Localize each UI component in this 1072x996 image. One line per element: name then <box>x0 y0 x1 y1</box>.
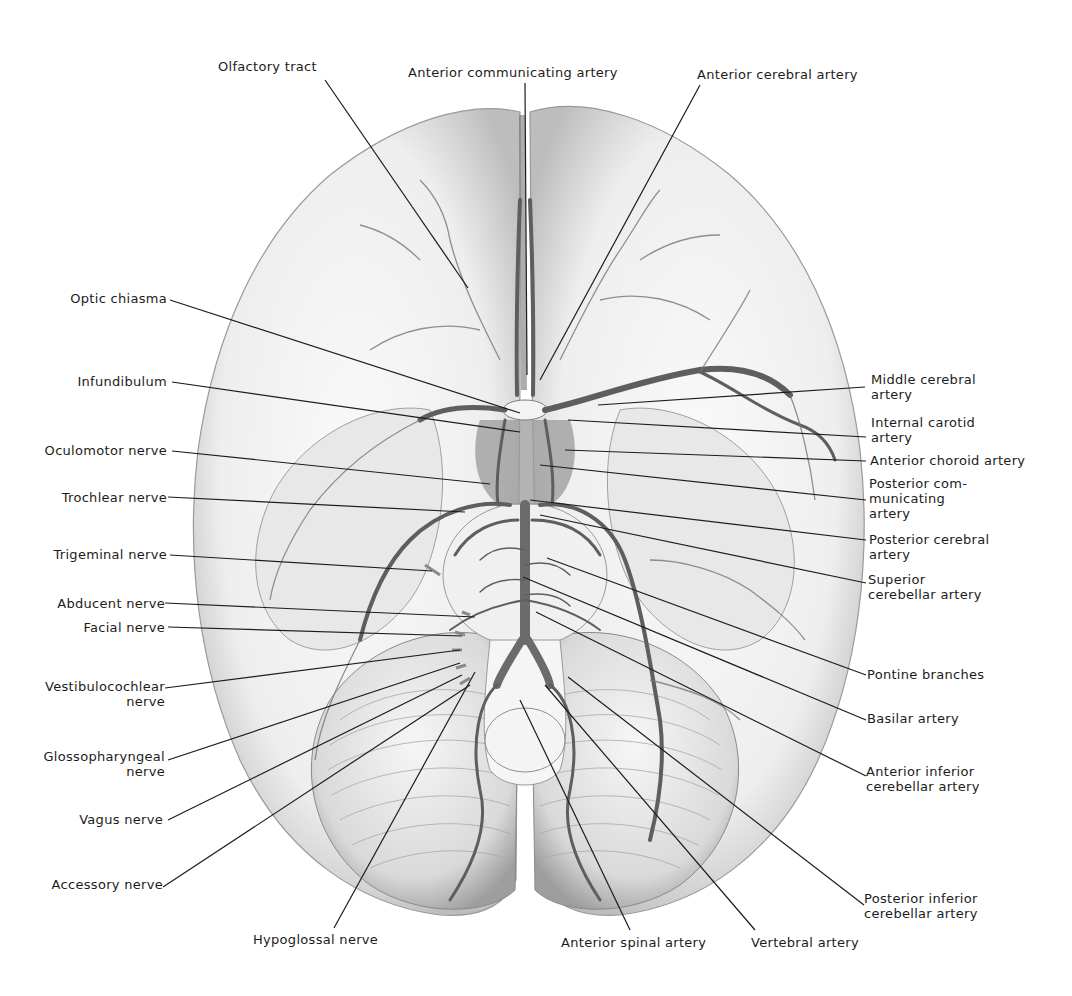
label-glossopharyngeal-nerve: Glossopharyngeal nerve <box>43 749 165 779</box>
label-middle-cerebral-artery: Middle cerebral artery <box>871 372 976 402</box>
label-trigeminal-nerve: Trigeminal nerve <box>53 547 167 562</box>
label-infundibulum: Infundibulum <box>77 374 167 389</box>
label-superior-cerebellar-artery: Superior cerebellar artery <box>868 572 982 602</box>
label-hypoglossal-nerve: Hypoglossal nerve <box>253 932 378 947</box>
interpeduncular-region <box>475 420 575 505</box>
label-olfactory-tract: Olfactory tract <box>218 59 317 74</box>
label-abducent-nerve: Abducent nerve <box>57 596 165 611</box>
label-anterior-communicating-artery: Anterior communicating artery <box>408 65 618 80</box>
label-vertebral-artery: Vertebral artery <box>751 935 859 950</box>
label-vagus-nerve: Vagus nerve <box>79 812 163 827</box>
label-optic-chiasma: Optic chiasma <box>70 291 167 306</box>
label-anterior-spinal-artery: Anterior spinal artery <box>561 935 706 950</box>
label-posterior-communicating-artery: Posterior com- municating artery <box>869 476 967 521</box>
label-vestibulocochlear-nerve: Vestibulocochlear nerve <box>45 679 165 709</box>
label-anterior-choroid-artery: Anterior choroid artery <box>870 453 1025 468</box>
label-accessory-nerve: Accessory nerve <box>52 877 163 892</box>
label-internal-carotid-artery: Internal carotid artery <box>871 415 975 445</box>
label-oculomotor-nerve: Oculomotor nerve <box>45 443 167 458</box>
anatomy-figure: Olfactory tract Anterior communicating a… <box>0 0 1072 996</box>
label-trochlear-nerve: Trochlear nerve <box>62 490 167 505</box>
label-facial-nerve: Facial nerve <box>83 620 165 635</box>
label-pontine-branches: Pontine branches <box>867 667 984 682</box>
label-anterior-cerebral-artery: Anterior cerebral artery <box>697 67 858 82</box>
label-posterior-inferior-cerebellar-artery: Posterior inferior cerebellar artery <box>864 891 978 921</box>
label-basilar-artery: Basilar artery <box>867 711 959 726</box>
label-anterior-inferior-cerebellar-artery: Anterior inferior cerebellar artery <box>866 764 980 794</box>
spinal-cord-section <box>485 708 565 772</box>
label-posterior-cerebral-artery: Posterior cerebral artery <box>869 532 989 562</box>
